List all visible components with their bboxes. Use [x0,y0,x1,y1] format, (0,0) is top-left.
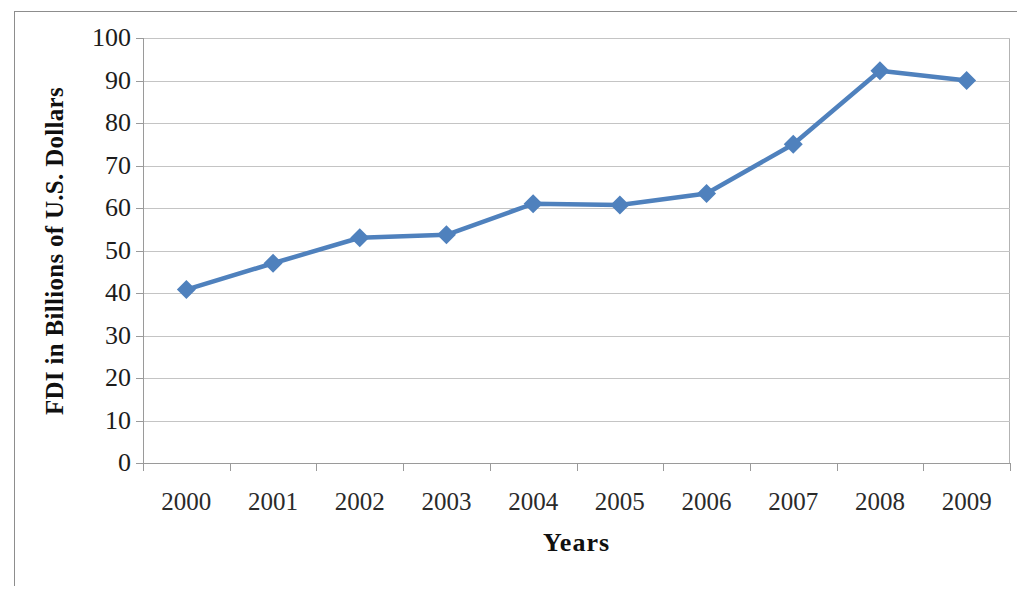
y-axis-tick [136,421,143,422]
x-axis-tick-label: 2008 [855,489,905,514]
y-axis-title-label: FDI in Billions of U.S. Dollars [41,86,69,414]
x-axis-tick-label: 2009 [942,489,992,514]
y-axis-tick-label: 0 [118,450,131,476]
y-axis-tick-label: 60 [105,195,131,221]
x-axis-tick [403,463,404,471]
y-axis-tick [136,463,143,464]
data-point-marker [957,71,976,90]
series-markers-group [177,61,976,299]
data-point-marker [177,280,196,299]
x-axis-tick [750,463,751,471]
y-axis-tick [136,123,143,124]
x-axis-title-label: Years [543,528,610,557]
y-axis-tick [136,208,143,209]
x-axis-title: Years [143,528,1010,558]
data-point-marker [350,228,369,247]
x-axis-tick [923,463,924,471]
y-axis-tick-label: 80 [105,110,131,136]
y-axis-tick-label: 90 [105,68,131,94]
y-axis-title: FDI in Billions of U.S. Dollars [38,38,72,463]
y-axis-tick-label: 20 [105,365,131,391]
data-point-marker [437,225,456,244]
y-axis-tick-label: 70 [105,153,131,179]
x-axis-line [143,463,1010,464]
page-frame-top-border [14,11,1017,12]
x-axis-tick-label: 2002 [335,489,385,514]
x-axis-tick-label: 2001 [248,489,298,514]
series-line-fdi [186,71,966,290]
chart-figure: FDI in Billions of U.S. Dollars 01020304… [0,0,1028,596]
data-point-marker [524,194,543,213]
x-axis-tick [230,463,231,471]
x-axis-tick [837,463,838,471]
y-axis-tick-label: 40 [105,280,131,306]
data-point-marker [697,184,716,203]
y-axis-tick [136,166,143,167]
x-axis-tick-label: 2000 [161,489,211,514]
data-series-svg [143,38,1010,463]
y-axis-tick-label: 50 [105,238,131,264]
x-axis-tick [1010,463,1011,471]
plot-area: 0102030405060708090100 20002001200220032… [143,38,1010,463]
y-axis-tick [136,336,143,337]
y-axis-tick [136,293,143,294]
x-axis-tick-label: 2003 [421,489,471,514]
y-axis-tick [136,81,143,82]
x-axis-tick [577,463,578,471]
x-axis-tick [490,463,491,471]
x-axis-tick-label: 2004 [508,489,558,514]
y-axis-tick-label: 100 [92,25,131,51]
y-axis-tick [136,378,143,379]
y-axis-tick [136,251,143,252]
data-point-marker [610,196,629,215]
data-point-marker [264,254,283,273]
x-axis-tick-label: 2006 [682,489,732,514]
y-axis-tick-label: 30 [105,323,131,349]
x-axis-tick-label: 2007 [768,489,818,514]
x-axis-tick [663,463,664,471]
x-axis-tick [316,463,317,471]
page-frame-left-border [14,11,15,586]
x-axis-tick-label: 2005 [595,489,645,514]
x-axis-tick [143,463,144,471]
y-axis-tick-label: 10 [105,408,131,434]
y-axis-tick [136,38,143,39]
